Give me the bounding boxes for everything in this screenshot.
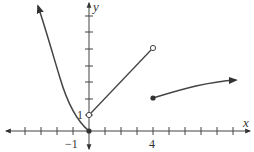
line-piece-2 xyxy=(91,50,151,113)
x-tick-label-neg1: −1 xyxy=(65,137,78,151)
y-tick-label-1: 1 xyxy=(77,108,83,122)
open-dot-0-1 xyxy=(86,112,91,117)
x-tick-label-4: 4 xyxy=(149,137,155,151)
closed-dot-origin xyxy=(86,128,91,133)
closed-dot-4-2 xyxy=(150,95,155,100)
y-axis-label: y xyxy=(91,0,99,14)
open-dot-4-5 xyxy=(150,45,155,50)
curve-piece-3 xyxy=(153,80,236,98)
graph: x y −1 4 1 xyxy=(0,0,254,152)
x-axis-label: x xyxy=(242,115,249,130)
